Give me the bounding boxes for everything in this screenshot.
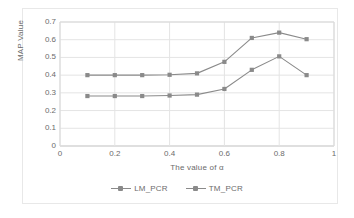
series-line-tm_pcr xyxy=(87,56,306,96)
legend-item[interactable]: TM_PCR xyxy=(186,184,243,193)
x-axis-tick-label: 1 xyxy=(319,150,349,158)
data-point-marker xyxy=(85,94,89,98)
data-point-marker xyxy=(195,93,199,97)
x-axis-tick-label: 0.6 xyxy=(209,150,239,158)
data-point-marker xyxy=(250,36,254,40)
y-axis-tick-label: 0.6 xyxy=(32,36,56,44)
y-axis-tick-label: 0 xyxy=(32,142,56,150)
data-point-marker xyxy=(277,54,281,58)
y-axis-tick-label: 0.7 xyxy=(32,18,56,26)
plot-area xyxy=(60,22,334,146)
y-axis-tick-label: 0.4 xyxy=(32,71,56,79)
legend-label: LM_PCR xyxy=(134,184,168,193)
data-point-marker xyxy=(277,31,281,35)
data-point-marker xyxy=(222,87,226,91)
data-point-marker xyxy=(305,73,309,77)
legend-marker-icon xyxy=(186,185,206,193)
y-axis-tick-label: 0.1 xyxy=(32,124,56,132)
y-axis-tick-label: 0.5 xyxy=(32,53,56,61)
data-point-marker xyxy=(113,94,117,98)
data-point-marker xyxy=(250,68,254,72)
y-axis-tick-labels: 00.10.20.30.40.50.60.7 xyxy=(28,0,56,160)
data-point-marker xyxy=(222,60,226,64)
x-axis-tick-label: 0 xyxy=(45,150,75,158)
x-axis-tick-label: 0.2 xyxy=(100,150,130,158)
chart-container: MAP Value 00.10.20.30.40.50.60.7 00.20.4… xyxy=(0,0,354,218)
data-point-marker xyxy=(113,73,117,77)
series-line-lm_pcr xyxy=(87,33,306,76)
data-point-marker xyxy=(85,73,89,77)
data-point-marker xyxy=(140,73,144,77)
y-axis-tick-label: 0.3 xyxy=(32,89,56,97)
data-point-marker xyxy=(195,71,199,75)
x-axis-tick-label: 0.8 xyxy=(264,150,294,158)
x-axis-title: The value of α xyxy=(60,163,334,172)
data-point-marker xyxy=(168,93,172,97)
data-point-marker xyxy=(168,73,172,77)
y-axis-tick-label: 0.2 xyxy=(32,107,56,115)
legend-marker-icon xyxy=(111,185,131,193)
x-axis-tick-label: 0.4 xyxy=(155,150,185,158)
legend-label: TM_PCR xyxy=(209,184,243,193)
legend-item[interactable]: LM_PCR xyxy=(111,184,168,193)
chart-legend: LM_PCRTM_PCR xyxy=(0,184,354,193)
plot-svg xyxy=(60,22,334,146)
data-point-marker xyxy=(140,94,144,98)
y-axis-title: MAP Value xyxy=(16,0,25,83)
data-point-marker xyxy=(305,37,309,41)
